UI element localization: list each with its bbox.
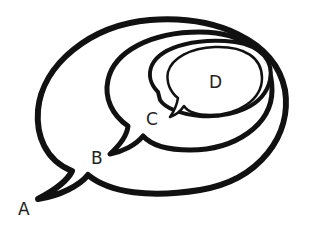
label-a: A: [18, 201, 30, 218]
label-d: D: [209, 74, 222, 91]
nested-speech-bubbles-diagram: A B C D: [0, 0, 309, 230]
label-c: C: [146, 111, 158, 128]
label-b: B: [91, 150, 103, 167]
